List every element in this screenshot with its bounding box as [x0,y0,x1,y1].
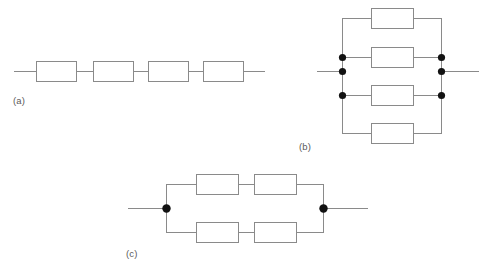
circuit-canvas [0,0,495,275]
circuit-c-bottom-branch [166,223,324,243]
resistor-symbol [204,62,244,82]
circuit-b-rails [343,18,442,133]
circuit-c-top-branch [166,175,324,195]
junction-dot [339,54,346,61]
circuit-b-parallel [317,9,479,144]
resistor-symbol [255,223,297,243]
resistor-symbol [372,48,414,68]
figure-label-a: (a) [13,95,25,106]
circuit-b-resistors [372,9,414,144]
resistor-symbol [255,175,297,195]
resistor-symbol [372,124,414,144]
figure-label-b: (b) [299,141,311,152]
junction-dot [339,68,346,75]
circuit-diagram-figure: (a) (b) (c) [0,0,495,275]
resistor-symbol [197,175,239,195]
junction-dot [438,92,445,99]
circuit-a-series [14,62,265,82]
junction-dot [438,54,445,61]
resistor-symbol [372,86,414,106]
circuit-b-branch-wires [342,19,442,134]
junction-dot [319,204,327,212]
circuit-c-node-risers [167,184,324,232]
resistor-symbol [94,62,134,82]
circuit-c-series-parallel [128,175,368,243]
resistor-symbol [149,62,189,82]
circuit-c-junctions [162,204,327,212]
resistor-symbol [37,62,77,82]
junction-dot [438,68,445,75]
resistor-symbol [197,223,239,243]
junction-dot [339,92,346,99]
resistor-symbol [372,9,414,29]
junction-dot [162,204,170,212]
figure-label-c: (c) [126,248,138,259]
